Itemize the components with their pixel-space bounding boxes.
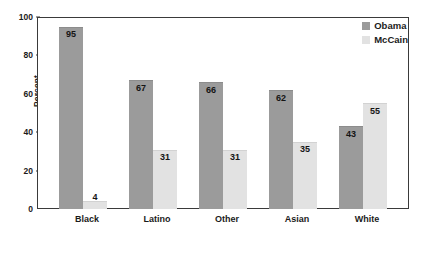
legend-label-mccain: McCain — [374, 35, 408, 45]
y-tick-label-60: 60 — [0, 89, 33, 99]
y-tick-label-20: 20 — [0, 166, 33, 176]
legend-item-obama: Obama — [362, 20, 408, 32]
y-tick-label-80: 80 — [0, 50, 33, 60]
x-tick-label-black: Black — [59, 214, 115, 224]
legend-item-mccain: McCain — [362, 34, 408, 46]
y-tick-label-100: 100 — [0, 12, 33, 22]
legend: Obama McCain — [362, 20, 408, 46]
legend-label-obama: Obama — [374, 21, 406, 31]
x-tick-label-asian: Asian — [269, 214, 325, 224]
x-tick-label-other: Other — [199, 214, 255, 224]
bar-chart: Percent 100 80 60 40 20 0 95 4 67 31 — [0, 0, 422, 255]
legend-swatch-obama-icon — [362, 22, 370, 30]
y-tick-label-40: 40 — [0, 127, 33, 137]
plot-area — [37, 17, 409, 209]
y-tick-label-0: 0 — [0, 204, 33, 214]
legend-swatch-mccain-icon — [362, 36, 370, 44]
x-tick-label-latino: Latino — [129, 214, 185, 224]
x-tick-label-white: White — [339, 214, 395, 224]
